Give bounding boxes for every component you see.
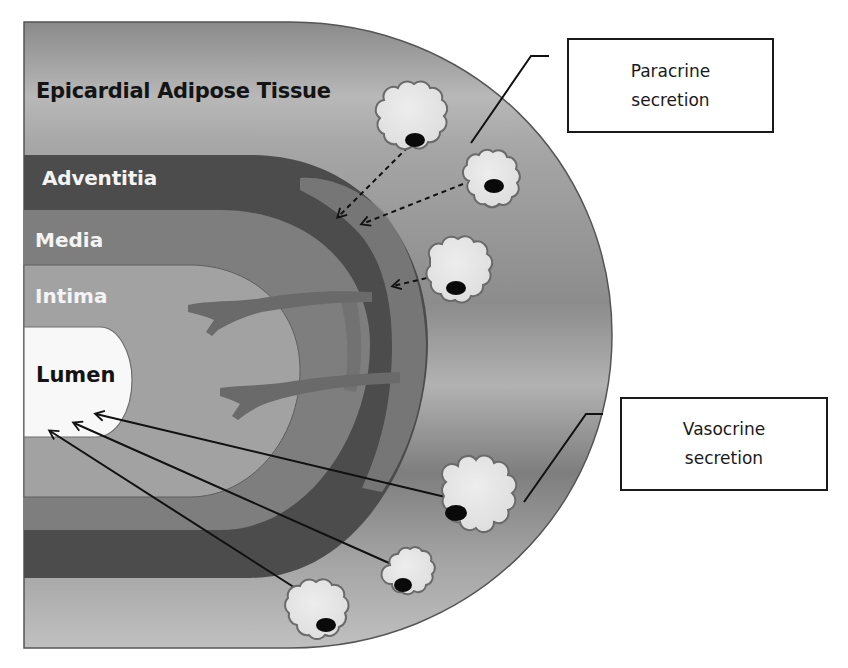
vasocrine-callout: Vasocrine secretion — [620, 397, 828, 491]
vasocrine-callout-line1: Vasocrine — [683, 415, 765, 444]
adventitia-label: Adventitia — [42, 166, 157, 190]
nucleus-icon — [394, 578, 412, 592]
paracrine-callout-line1: Paracrine — [631, 57, 711, 86]
nucleus-icon — [316, 618, 336, 632]
media-label: Media — [35, 228, 103, 252]
intima-label: Intima — [35, 284, 107, 308]
adipocyte-icon — [376, 81, 447, 149]
nucleus-icon — [445, 505, 467, 521]
eat-label: Epicardial Adipose Tissue — [36, 79, 331, 103]
adipocyte-icon — [442, 456, 516, 532]
lumen-label: Lumen — [36, 363, 115, 387]
nucleus-icon — [484, 179, 504, 193]
nucleus-icon — [446, 281, 466, 295]
vasocrine-callout-line2: secretion — [685, 444, 763, 473]
paracrine-callout: Paracrine secretion — [567, 38, 774, 133]
paracrine-callout-line2: secretion — [631, 86, 709, 115]
nucleus-icon — [405, 133, 425, 147]
